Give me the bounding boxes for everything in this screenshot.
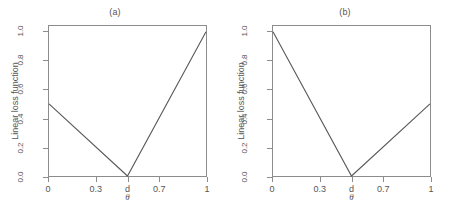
x-tick-mark bbox=[96, 177, 97, 182]
plot-area-b bbox=[272, 25, 431, 177]
figure-canvas: (a) Linear loss function 0.00.20.40.60.8… bbox=[0, 0, 460, 215]
panel-title-b: (b) bbox=[230, 6, 460, 18]
x-tick-mark bbox=[431, 177, 432, 182]
x-tick-mark bbox=[352, 177, 353, 182]
y-tick-mark bbox=[43, 119, 48, 120]
x-tick-mark bbox=[128, 177, 129, 182]
x-axis-label-a: θ bbox=[48, 192, 207, 203]
y-tick-label: 1.0 bbox=[16, 11, 25, 51]
y-tick-mark bbox=[43, 60, 48, 61]
x-tick-mark bbox=[159, 177, 160, 182]
y-tick-mark bbox=[43, 31, 48, 32]
y-tick-mark bbox=[267, 31, 272, 32]
y-tick-mark bbox=[43, 148, 48, 149]
y-tick-label: 1.0 bbox=[240, 11, 249, 51]
x-axis-label-b: θ bbox=[272, 192, 431, 203]
y-tick-mark bbox=[267, 60, 272, 61]
y-tick-mark bbox=[43, 89, 48, 90]
plot-line-b bbox=[273, 26, 430, 176]
x-tick-mark bbox=[207, 177, 208, 182]
x-tick-mark bbox=[48, 177, 49, 182]
y-tick-mark bbox=[267, 148, 272, 149]
panel-title-a: (a) bbox=[0, 6, 230, 18]
chart-panel-a: (a) Linear loss function 0.00.20.40.60.8… bbox=[0, 0, 230, 215]
plot-line-a bbox=[49, 26, 206, 176]
x-tick-mark bbox=[383, 177, 384, 182]
plot-area-a bbox=[48, 25, 207, 177]
x-tick-mark bbox=[272, 177, 273, 182]
x-tick-mark bbox=[320, 177, 321, 182]
y-tick-mark bbox=[267, 89, 272, 90]
chart-panel-b: (b) Linear loss function 0.00.20.40.60.8… bbox=[230, 0, 460, 215]
y-tick-mark bbox=[267, 119, 272, 120]
